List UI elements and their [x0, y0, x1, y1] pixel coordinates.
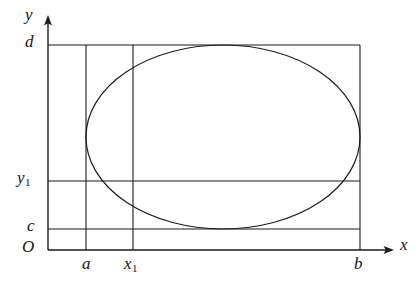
tick-label-x1-subscript: 1 — [132, 262, 138, 274]
origin-label: O — [22, 238, 34, 255]
tick-label-a: a — [82, 255, 91, 272]
tick-label-y1: y1 — [17, 169, 30, 186]
diagram-canvas — [0, 0, 418, 284]
tick-label-x1-base: x — [124, 254, 132, 273]
tick-label-c: c — [27, 217, 35, 234]
x-axis-label: x — [400, 236, 408, 253]
y-axis-label: y — [25, 6, 33, 23]
tick-label-b: b — [354, 255, 363, 272]
tick-label-y1-base: y — [17, 168, 25, 187]
tick-label-x1: x1 — [124, 255, 137, 272]
inscribed-ellipse — [86, 45, 360, 229]
tick-label-d: d — [25, 33, 34, 50]
tick-label-y1-subscript: 1 — [25, 176, 31, 188]
geometry-figure: y d y1 c O a x1 b x — [0, 0, 418, 284]
